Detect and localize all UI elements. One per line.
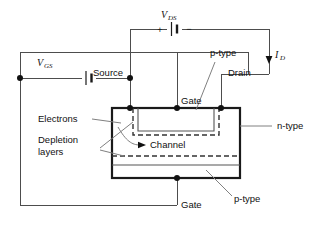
p-type-bottom-label: p-type	[234, 193, 260, 204]
channel-label: Channel	[150, 139, 185, 150]
depletion-label-line1: Depletion	[38, 134, 78, 145]
gate-top-node-dot	[174, 105, 180, 111]
gate-bottom-label: Gate	[181, 199, 202, 210]
vds-label-subscript: DS	[167, 14, 177, 22]
jfet-schematic-svg: + − V DS V	[0, 0, 323, 227]
drain-node-dot	[218, 105, 224, 111]
depletion-label-line2: layers	[38, 146, 64, 157]
gate-top-label: Gate	[181, 95, 202, 106]
source-node-dot	[127, 105, 133, 111]
vds-minus-sign: −	[186, 24, 191, 34]
vds-plus-sign: +	[157, 25, 162, 35]
jfet-diagram: + − V DS V	[0, 0, 323, 227]
gate-bottom-node-dot	[174, 175, 180, 181]
electrons-label: Electrons	[38, 113, 78, 124]
vgs-label-subscript: GS	[44, 62, 53, 70]
vgs-left-node-dot	[17, 75, 23, 81]
n-type-label: n-type	[277, 120, 303, 131]
source-label: Source	[93, 67, 123, 78]
id-label-symbol: I	[274, 49, 279, 60]
p-type-top-label: p-type	[210, 47, 236, 58]
id-label-subscript: D	[279, 54, 285, 62]
source-junction-dot	[127, 75, 133, 81]
drain-label: Drain	[228, 67, 251, 78]
